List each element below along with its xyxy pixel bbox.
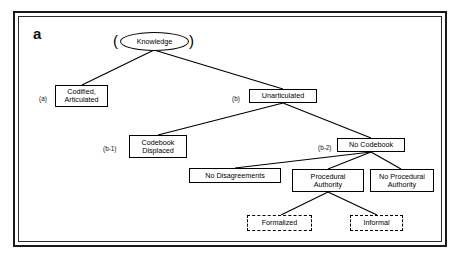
- node-unarticulated-label: Unarticulated: [262, 92, 304, 100]
- node-unarticulated[interactable]: Unarticulated: [249, 89, 317, 103]
- edge-procedural-formalized: [281, 192, 328, 215]
- tag-unarticulated: (b): [232, 95, 240, 102]
- figure-panel: a ( ) Knowledge (a) Codif: [0, 0, 462, 265]
- node-no-procedural-label-line2: Authority: [388, 181, 416, 189]
- edge-knowledge-codified: [82, 50, 154, 85]
- node-knowledge-label: Knowledge: [137, 38, 173, 46]
- node-codified-articulated[interactable]: Codified, Articulated: [55, 85, 108, 107]
- right-bracket-decoration: ): [189, 33, 194, 48]
- node-informal[interactable]: Informal: [350, 215, 403, 231]
- tag-no-codebook: (b-2): [318, 144, 332, 151]
- edge-unarticulated-nocodebook: [283, 103, 371, 138]
- node-codebook-displaced[interactable]: Codebook Displaced: [129, 135, 187, 158]
- node-codebook-label-line2: Displaced: [142, 147, 174, 155]
- node-knowledge[interactable]: Knowledge: [120, 32, 189, 51]
- node-no-codebook[interactable]: No Codebook: [337, 138, 405, 152]
- node-informal-label: Informal: [364, 219, 390, 227]
- tag-codified: (a): [39, 95, 47, 102]
- node-formalized[interactable]: Formalized: [247, 215, 312, 231]
- node-codified-label-line2: Articulated: [65, 96, 99, 104]
- node-procedural-label-line2: Authority: [314, 181, 342, 189]
- tag-codebook-displaced: (b-1): [103, 145, 117, 152]
- node-procedural-authority[interactable]: Procedural Authority: [292, 169, 364, 192]
- node-formalized-label: Formalized: [262, 219, 298, 227]
- edge-knowledge-unarticulated: [154, 50, 283, 89]
- edge-procedural-informal: [328, 192, 377, 215]
- node-no-procedural-authority[interactable]: No Procedural Authority: [370, 169, 434, 192]
- node-no-disagreements[interactable]: No Disagreements: [189, 168, 281, 183]
- left-bracket-decoration: (: [113, 33, 118, 48]
- edge-unarticulated-codebook: [158, 103, 283, 135]
- edge-nocodebook-noprocedural: [371, 152, 401, 169]
- node-no-codebook-label: No Codebook: [349, 141, 393, 149]
- node-no-disagreements-label: No Disagreements: [205, 172, 265, 180]
